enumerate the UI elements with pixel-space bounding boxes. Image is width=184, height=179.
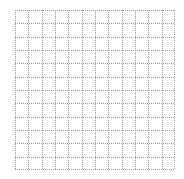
grid-lines [15,10,175,170]
canvas [0,0,184,179]
dotted-grid [15,10,175,170]
